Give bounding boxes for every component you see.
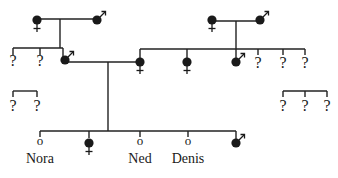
unaffected-marker: o bbox=[37, 133, 44, 148]
individual-rx1: ? bbox=[279, 97, 286, 114]
individual-ru1: ? bbox=[254, 54, 261, 71]
individual-uncle bbox=[231, 54, 244, 67]
male-symbol-icon bbox=[263, 12, 268, 17]
individual-c2 bbox=[84, 138, 93, 155]
individual-ru2: ? bbox=[279, 54, 286, 71]
individual-rx3: ? bbox=[323, 97, 330, 114]
unknown-marker: ? bbox=[279, 97, 286, 114]
name-labels: Nora Ned Denis bbox=[26, 151, 204, 166]
affected-circle bbox=[182, 57, 191, 66]
pedigree-diagram: ??????????ooo Nora Ned Denis bbox=[0, 0, 338, 178]
unknown-marker: ? bbox=[9, 97, 16, 114]
individual-lx1: ? bbox=[9, 97, 16, 114]
individual-lu2: ? bbox=[36, 52, 43, 69]
individual-lgf bbox=[92, 12, 105, 25]
pedigree-lines bbox=[13, 19, 327, 139]
affected-circle bbox=[32, 15, 41, 24]
unknown-marker: ? bbox=[301, 54, 308, 71]
individual-mother bbox=[135, 57, 144, 74]
individual-lx2: ? bbox=[33, 97, 40, 114]
individual-rgm bbox=[207, 15, 216, 32]
label-nora: Nora bbox=[26, 151, 55, 166]
individual-nora: o bbox=[37, 133, 44, 148]
unaffected-marker: o bbox=[137, 133, 144, 148]
affected-circle bbox=[207, 15, 216, 24]
individual-rgf bbox=[255, 12, 268, 25]
label-denis: Denis bbox=[172, 151, 205, 166]
unaffected-marker: o bbox=[185, 133, 192, 148]
unknown-marker: ? bbox=[33, 97, 40, 114]
unknown-marker: ? bbox=[36, 52, 43, 69]
individual-c5 bbox=[231, 135, 244, 148]
affected-circle bbox=[84, 138, 93, 147]
individual-denis: o bbox=[185, 133, 192, 148]
unknown-marker: ? bbox=[323, 97, 330, 114]
affected-circle bbox=[135, 57, 144, 66]
male-symbol-icon bbox=[100, 12, 105, 17]
male-symbol-icon bbox=[239, 54, 244, 59]
male-symbol-icon bbox=[239, 135, 244, 140]
male-symbol-icon bbox=[68, 52, 73, 57]
unknown-marker: ? bbox=[301, 97, 308, 114]
individual-rx2: ? bbox=[301, 97, 308, 114]
unknown-marker: ? bbox=[9, 52, 16, 69]
pedigree-symbols: ??????????ooo bbox=[9, 12, 330, 156]
unknown-marker: ? bbox=[254, 54, 261, 71]
unknown-marker: ? bbox=[279, 54, 286, 71]
individual-lu1: ? bbox=[9, 52, 16, 69]
individual-ru3: ? bbox=[301, 54, 308, 71]
individual-lgm bbox=[32, 15, 41, 32]
individual-ned: o bbox=[137, 133, 144, 148]
label-ned: Ned bbox=[128, 151, 151, 166]
individual-aunt bbox=[182, 57, 191, 74]
